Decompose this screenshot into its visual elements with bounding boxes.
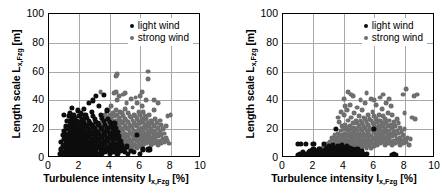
data-point [408, 137, 413, 142]
x-axis-label: Turbulence intensity Ix,Fzg [%] [246, 172, 442, 184]
data-point [81, 106, 86, 111]
legend-item: strong wind [130, 32, 189, 43]
data-point [145, 76, 150, 81]
x-tick-labels: 0246810 [48, 159, 200, 172]
data-point [97, 104, 102, 109]
data-point [360, 108, 365, 113]
data-point [364, 151, 369, 156]
legend-marker-strong-icon [130, 36, 134, 40]
legend-marker-light-icon [364, 24, 368, 28]
x-axis-label-main: Turbulence intensity I [43, 172, 151, 184]
x-tick-label: 10 [428, 159, 440, 171]
data-point [393, 153, 398, 157]
data-point [138, 94, 143, 99]
data-point [69, 105, 74, 110]
data-point [389, 104, 394, 109]
x-tick-label: 0 [45, 159, 51, 171]
data-point [90, 98, 95, 103]
data-point [145, 69, 150, 74]
y-tick-label: 60 [32, 65, 44, 77]
y-tick-label: 40 [266, 93, 278, 105]
data-point [351, 94, 356, 99]
data-point [156, 101, 161, 106]
legend-label: strong wind [372, 32, 423, 43]
data-point [139, 89, 144, 94]
legend-item: light wind [130, 20, 189, 31]
data-point [402, 111, 407, 116]
x-tick-label: 2 [309, 159, 315, 171]
x-tick-label: 6 [136, 159, 142, 171]
data-point [401, 92, 406, 97]
y-tick-label: 20 [32, 122, 44, 134]
data-point [299, 141, 304, 146]
data-point [303, 141, 308, 146]
data-point [404, 86, 409, 91]
x-axis-label-sub: x,Fzg [151, 177, 169, 186]
y-tick-label: 100 [260, 7, 278, 19]
y-tick-labels: 020406080100 [14, 13, 44, 157]
legend-item: light wind [364, 20, 423, 31]
x-tick-label: 6 [370, 159, 376, 171]
x-axis-label-main: Turbulence intensity I [271, 172, 379, 184]
data-point [139, 104, 144, 109]
data-point [379, 107, 384, 112]
data-point [407, 143, 412, 148]
x-tick-label: 4 [106, 159, 112, 171]
data-point [164, 124, 169, 129]
y-tick-labels: 020406080100 [248, 13, 278, 157]
data-point [402, 127, 407, 132]
data-point [115, 98, 120, 103]
data-point [123, 91, 128, 96]
data-point [363, 101, 368, 106]
legend-item: strong wind [364, 32, 423, 43]
plot-area-left: light windstrong wind [48, 13, 200, 157]
x-axis-label-unit: [%] [397, 172, 416, 184]
data-point [343, 104, 348, 109]
data-point [414, 92, 419, 97]
data-point [373, 102, 378, 107]
data-point [372, 98, 377, 103]
plot-area-right: light windstrong wind [282, 13, 434, 157]
data-point [144, 98, 149, 103]
gridline-horizontal [49, 72, 199, 73]
data-point [132, 150, 137, 155]
gridline-vertical [313, 14, 314, 156]
x-tick-label: 0 [279, 159, 285, 171]
x-tick-labels: 0246810 [282, 159, 434, 172]
data-point [311, 141, 316, 146]
data-point [335, 115, 340, 120]
data-point [381, 92, 386, 97]
data-point [115, 72, 120, 77]
y-tick-label: 60 [266, 65, 278, 77]
data-point [138, 151, 143, 156]
data-point [346, 89, 351, 94]
data-point [344, 108, 349, 113]
data-point [124, 101, 129, 106]
legend-marker-light-icon [130, 24, 134, 28]
data-point [167, 141, 172, 146]
legend-marker-strong-icon [364, 36, 368, 40]
data-point [147, 112, 152, 117]
y-tick-label: 80 [32, 36, 44, 48]
data-point [168, 112, 173, 117]
y-tick-label: 80 [266, 36, 278, 48]
x-tick-label: 2 [75, 159, 81, 171]
panel-right: Length scale Lx,Fzg [m] 020406080100 lig… [216, 0, 432, 196]
legend-label: light wind [372, 20, 414, 31]
x-tick-label: 8 [401, 159, 407, 171]
x-axis-label: Turbulence intensity Ix,Fzg [%] [18, 172, 214, 184]
legend-label: strong wind [138, 32, 189, 43]
data-point [130, 105, 135, 110]
x-axis-label-sub: x,Fzg [379, 177, 397, 186]
data-point [413, 117, 418, 122]
y-tick-label: 100 [26, 7, 44, 19]
data-point [347, 102, 352, 107]
panel-left: Length scale Lx,Fzg [m] 020406080100 lig… [0, 0, 216, 196]
data-point [151, 108, 156, 113]
data-point [109, 104, 114, 109]
legend-left: light windstrong wind [128, 18, 193, 46]
x-axis-label-unit: [%] [169, 172, 188, 184]
data-point [341, 97, 346, 102]
x-tick-label: 8 [167, 159, 173, 171]
